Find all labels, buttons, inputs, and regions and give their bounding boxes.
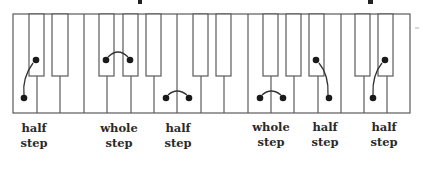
note-dot — [280, 95, 287, 102]
step-label-line1: whole — [241, 120, 301, 135]
note-dot — [186, 95, 193, 102]
note-dot — [163, 95, 170, 102]
black-key — [378, 14, 393, 76]
step-label: half step — [354, 120, 414, 150]
step-label: half step — [4, 121, 64, 151]
title-fragment — [138, 0, 373, 4]
black-key — [146, 14, 161, 76]
note-dot — [33, 57, 40, 64]
step-label-line2: step — [89, 136, 149, 151]
black-key — [216, 14, 231, 76]
note-dot — [257, 95, 264, 102]
note-dot — [127, 57, 134, 64]
step-label: whole step — [89, 121, 149, 151]
step-label-line2: step — [241, 135, 301, 150]
black-key — [123, 14, 138, 76]
note-dot — [21, 95, 28, 102]
piano-keyboard — [13, 14, 410, 113]
black-key — [286, 14, 301, 76]
note-dot — [326, 95, 333, 102]
step-label-line1: half — [295, 120, 355, 135]
note-dot — [370, 95, 377, 102]
note-dot — [313, 57, 320, 64]
step-label: half step — [148, 121, 208, 151]
step-label-line1: whole — [89, 121, 149, 136]
step-label-line2: step — [354, 135, 414, 150]
black-key — [52, 14, 68, 76]
step-label-line1: half — [148, 121, 208, 136]
black-key — [99, 14, 114, 76]
black-key — [355, 14, 370, 76]
black-key — [193, 14, 208, 76]
step-label: whole step — [241, 120, 301, 150]
half-whole-step-diagram: half step whole step half step whole ste… — [0, 0, 423, 170]
note-dot — [103, 57, 110, 64]
black-key — [263, 14, 278, 76]
step-label-line2: step — [148, 136, 208, 151]
step-label-line2: step — [4, 136, 64, 151]
step-label-line2: step — [295, 135, 355, 150]
step-label-line1: half — [354, 120, 414, 135]
step-label-line1: half — [4, 121, 64, 136]
scan-artifact — [415, 27, 419, 29]
note-dot — [382, 57, 389, 64]
step-label: half step — [295, 120, 355, 150]
keyboard-frame — [13, 14, 410, 113]
